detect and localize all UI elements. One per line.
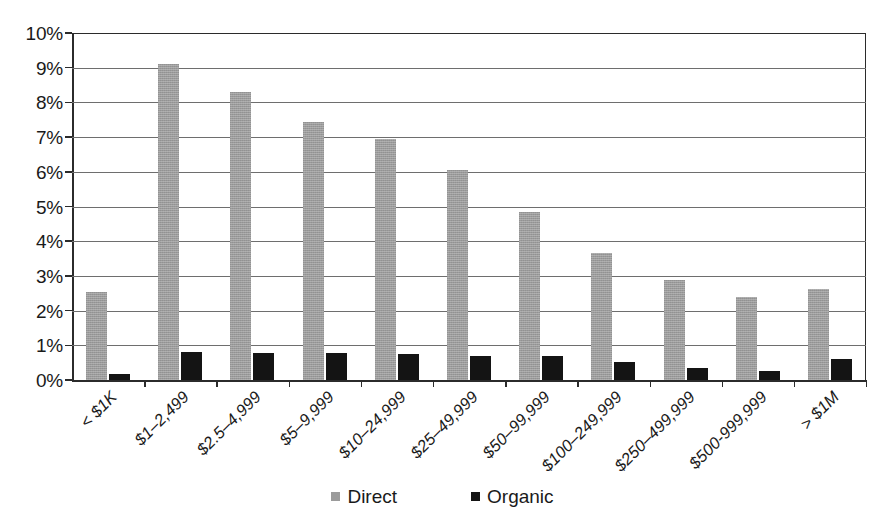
bar-organic[interactable] [614, 362, 635, 380]
bar-direct[interactable] [736, 297, 757, 380]
y-axis-tick-mark [65, 240, 72, 242]
plot-wrapper: 0%1%2%3%4%5%6%7%8%9%10% [72, 33, 866, 380]
y-axis-tick-mark [65, 206, 72, 208]
bar-group [216, 33, 288, 380]
bar-group [361, 33, 433, 380]
y-axis-tick-mark [65, 310, 72, 312]
y-axis-tick-mark [65, 32, 72, 34]
bar-direct[interactable] [375, 139, 396, 380]
y-axis-tick-label: 8% [36, 93, 63, 112]
bar-group [72, 33, 144, 380]
y-axis-tick-mark [65, 171, 72, 173]
x-axis-tick-mark [866, 380, 867, 387]
bar-group [289, 33, 361, 380]
bar-group [794, 33, 866, 380]
bar-organic[interactable] [326, 353, 347, 380]
bar-group [650, 33, 722, 380]
bar-organic[interactable] [831, 359, 852, 380]
legend-item-direct[interactable]: Direct [331, 487, 397, 506]
y-axis-tick-label: 7% [36, 128, 63, 147]
bar-direct[interactable] [86, 292, 107, 380]
bar-organic[interactable] [470, 356, 491, 380]
chart-legend: DirectOrganic [0, 487, 885, 506]
x-axis-tick-label: > $1M [797, 388, 841, 432]
y-axis-tick-label: 1% [36, 336, 63, 355]
y-axis-tick-label: 4% [36, 232, 63, 251]
bar-organic[interactable] [542, 356, 563, 380]
y-axis-tick-mark [65, 102, 72, 104]
bar-groups [72, 33, 866, 380]
bar-group [722, 33, 794, 380]
bar-organic[interactable] [253, 353, 274, 380]
y-axis-tick-label: 10% [26, 24, 63, 43]
bar-group [505, 33, 577, 380]
y-axis-tick-label: 2% [36, 301, 63, 320]
bar-direct[interactable] [519, 212, 540, 380]
bar-direct[interactable] [447, 170, 468, 380]
bar-direct[interactable] [664, 280, 685, 380]
legend-item-organic[interactable]: Organic [471, 487, 554, 506]
y-axis-tick-mark [65, 67, 72, 69]
bar-group [144, 33, 216, 380]
bar-direct[interactable] [808, 289, 829, 380]
y-axis-tick-mark [65, 379, 72, 381]
y-axis-tick-label: 6% [36, 162, 63, 181]
bar-direct[interactable] [230, 92, 251, 380]
bar-group [577, 33, 649, 380]
bar-organic[interactable] [398, 354, 419, 380]
bar-group [433, 33, 505, 380]
x-axis-label-slot: $500-999,999 [722, 382, 794, 482]
y-axis-tick-mark [65, 275, 72, 277]
legend-label: Direct [347, 487, 397, 506]
bar-organic[interactable] [759, 371, 780, 380]
x-axis-label-group: < $1K$1–2,499$2.5–4,999$5–9,999$10–24,99… [72, 382, 866, 482]
x-axis-tick-label: < $1K [77, 388, 119, 430]
legend-swatch-direct-icon [331, 492, 340, 501]
bar-direct[interactable] [303, 122, 324, 381]
y-axis-tick-mark [65, 136, 72, 138]
bar-direct[interactable] [158, 64, 179, 380]
y-axis-tick-label: 5% [36, 197, 63, 216]
y-axis-tick-label: 3% [36, 266, 63, 285]
x-axis-label-slot: > $1M [794, 382, 866, 482]
legend-label: Organic [487, 487, 554, 506]
bar-organic[interactable] [109, 374, 130, 380]
bar-organic[interactable] [181, 352, 202, 380]
y-axis-tick-mark [65, 345, 72, 347]
y-axis-tick-label: 0% [36, 371, 63, 390]
bar-chart-figure: 0%1%2%3%4%5%6%7%8%9%10% < $1K$1–2,499$2.… [0, 0, 885, 532]
bar-organic[interactable] [687, 368, 708, 380]
y-axis-tick-label: 9% [36, 58, 63, 77]
legend-swatch-organic-icon [471, 492, 480, 501]
bar-direct[interactable] [591, 253, 612, 380]
